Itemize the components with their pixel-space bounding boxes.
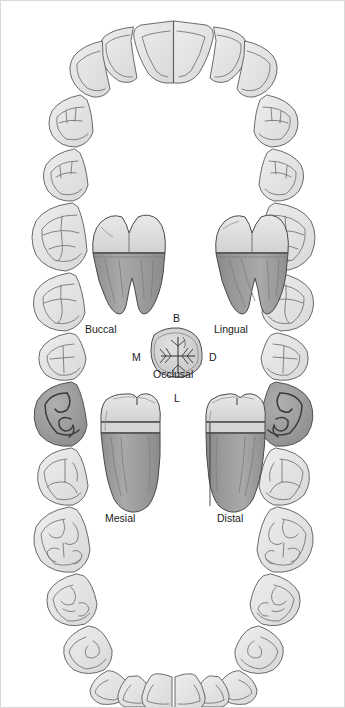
label-buccal: Buccal (85, 324, 117, 335)
dental-arch-figure: Buccal Lingual Occlusal Mesial Distal B … (0, 0, 345, 708)
tooth-upper-left-first-premolar (49, 95, 93, 147)
tooth-upper-left-second-premolar (43, 149, 88, 201)
maxillary-arch (32, 21, 315, 380)
tooth-view-lingual (216, 215, 289, 314)
tooth-lower-left-second-molar (38, 448, 88, 505)
tooth-view-mesial (101, 394, 160, 512)
tooth-lower-left-central-incisor (142, 674, 172, 708)
tooth-lower-right-first-premolar (235, 626, 283, 674)
dental-illustration-svg (1, 1, 345, 708)
label-orientation-distal: D (209, 352, 217, 363)
tooth-view-buccal (93, 215, 166, 314)
tooth-lower-left-first-premolar (64, 626, 112, 674)
tooth-lower-right-third-molar (257, 507, 313, 572)
tooth-upper-left-third-molar (39, 333, 86, 380)
label-orientation-lingual: L (174, 393, 180, 404)
tooth-upper-left-second-molar (33, 273, 85, 331)
tooth-lower-left-second-premolar (47, 574, 97, 626)
label-distal: Distal (217, 513, 243, 524)
tooth-lower-left-third-molar (34, 507, 90, 572)
tooth-upper-left-central-incisor (134, 21, 173, 83)
tooth-upper-right-third-molar (261, 333, 308, 380)
tooth-upper-right-central-incisor (174, 21, 213, 83)
tooth-view-distal (206, 394, 265, 512)
mandibular-arch (34, 382, 313, 708)
tooth-lower-right-central-incisor (175, 674, 205, 708)
tooth-lower-right-first-molar-highlighted (260, 382, 313, 446)
label-orientation-mesial: M (132, 352, 141, 363)
tooth-upper-left-first-molar (32, 203, 87, 271)
label-occlusal: Occlusal (153, 369, 193, 380)
tooth-upper-right-second-premolar (259, 149, 304, 201)
label-mesial: Mesial (105, 513, 135, 524)
tooth-upper-right-first-premolar (254, 95, 298, 147)
label-lingual: Lingual (214, 324, 248, 335)
tooth-lower-right-second-molar (259, 448, 309, 505)
tooth-lower-left-first-molar-highlighted (34, 382, 87, 446)
tooth-lower-right-second-premolar (250, 574, 300, 626)
label-orientation-buccal: B (173, 313, 180, 324)
